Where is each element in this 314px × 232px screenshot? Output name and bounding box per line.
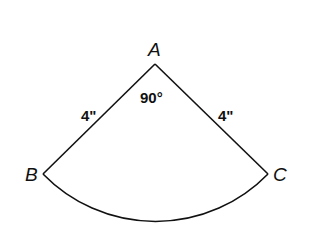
radius-ab	[43, 64, 155, 174]
side-ab-label: 4"	[81, 107, 96, 124]
angle-label: 90°	[140, 89, 163, 106]
sector-shape	[43, 64, 268, 221]
vertex-label-b: B	[25, 164, 38, 185]
side-ac-label: 4"	[218, 107, 233, 124]
vertex-label-c: C	[273, 164, 287, 185]
radius-ac	[155, 64, 268, 174]
arc-bc	[43, 174, 268, 221]
vertex-label-a: A	[147, 39, 161, 60]
sector-diagram: A B C 90° 4" 4"	[0, 0, 314, 232]
